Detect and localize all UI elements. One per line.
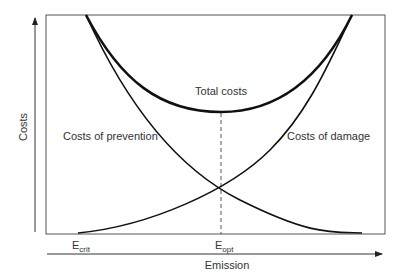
prevention-label: Costs of prevention [63, 130, 158, 142]
eopt-sub: opt [222, 245, 234, 254]
ecrit-label: Ecrit [72, 239, 91, 254]
y-axis-label: Costs [17, 112, 29, 141]
eopt-main: E [215, 239, 222, 251]
prevention-curve [86, 15, 362, 233]
total-cost-curve [86, 15, 352, 112]
ecrit-main: E [72, 239, 79, 251]
damage-label: Costs of damage [287, 130, 370, 142]
eopt-label: Eopt [215, 239, 234, 254]
cost-optimization-diagram: Costs Emission Total costs Costs of prev… [0, 0, 406, 279]
damage-curve [78, 15, 352, 233]
total-costs-label: Total costs [195, 85, 247, 97]
ecrit-sub: crit [79, 245, 90, 254]
x-axis-label: Emission [205, 259, 250, 271]
